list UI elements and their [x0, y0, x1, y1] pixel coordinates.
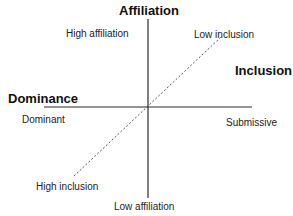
dominance-title: Dominance [8, 91, 78, 106]
low-affiliation-label: Low affiliation [114, 201, 174, 212]
affiliation-title: Affiliation [119, 3, 179, 18]
submissive-label: Submissive [226, 117, 277, 128]
low-inclusion-label: Low inclusion [194, 29, 254, 40]
high-affiliation-label: High affiliation [66, 28, 129, 39]
dominant-label: Dominant [22, 114, 65, 125]
high-inclusion-label: High inclusion [36, 181, 98, 192]
inclusion-title: Inclusion [235, 63, 292, 78]
